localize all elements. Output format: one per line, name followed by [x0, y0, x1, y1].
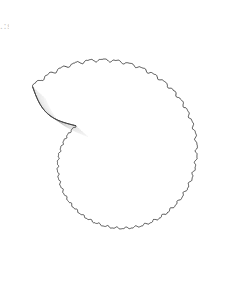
ammonite-illustration [0, 0, 238, 286]
left-margin-text-fragment: . : s e . [0, 18, 9, 98]
caption-zone [0, 272, 238, 286]
illustration-plate: . : s e . [0, 0, 238, 286]
